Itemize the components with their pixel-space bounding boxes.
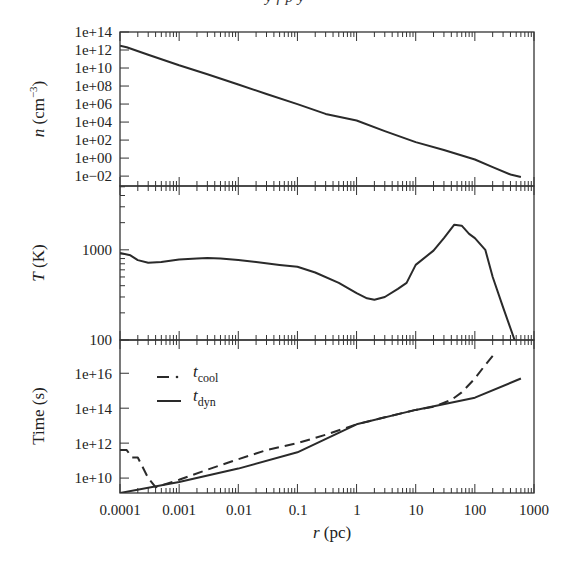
figure: 1e+14 1e+12 1e+10 1e+08 1e+06 1e+04 1e+0…	[0, 0, 570, 573]
ytick-label: 1e+00	[74, 150, 112, 166]
panel-frames	[120, 32, 534, 493]
legend-entry-tdyn: tdyn	[157, 386, 216, 409]
xtick-labels: 0.0001 0.001 0.01 0.1 1 10 100 1000	[99, 502, 549, 518]
time-ytick-labels: 1e+16 1e+14 1e+12 1e+10	[74, 366, 112, 486]
ytick-label: 1e−02	[74, 168, 112, 184]
T-curve	[120, 225, 515, 340]
x-axis-label-unit: (pc)	[320, 523, 352, 542]
time-y-axis-label: Time (s)	[29, 387, 48, 444]
ytick-label: 1e+16	[74, 366, 112, 382]
xtick-label: 1000	[519, 502, 549, 518]
ytick-label: 1e+14	[74, 401, 112, 417]
ytick-label: 1e+08	[74, 78, 112, 94]
xtick-label: 0.01	[226, 502, 252, 518]
legend-label-tcool: tcool	[193, 362, 219, 385]
ytick-label: 1e+10	[74, 470, 112, 486]
xtick-label: 0.0001	[99, 502, 140, 518]
xtick-label: 1	[353, 502, 361, 518]
x-axis-label: r (pc)	[313, 523, 351, 542]
temperature-y-axis-label: T (K)	[29, 244, 48, 281]
legend: tcool tdyn	[157, 362, 219, 409]
ytick-label: 1e+06	[74, 96, 112, 112]
T-panel-frame	[120, 186, 534, 340]
density-y-axis-label: n (cm−3)	[27, 81, 48, 138]
temperature-ytick-labels: 1000 100	[82, 242, 112, 348]
density-label-var: n	[29, 129, 48, 138]
ytick-label: 1e+12	[74, 436, 112, 452]
legend-label-tdyn: tdyn	[193, 386, 216, 409]
n-panel-frame	[120, 32, 534, 186]
ytick-label: 1e+10	[74, 60, 112, 76]
xtick-label: 100	[464, 502, 487, 518]
ytick-label: 1e+14	[74, 24, 112, 40]
ytick-label: 1e+12	[74, 42, 112, 58]
density-label-close: )	[29, 81, 48, 87]
ytick-label: 1e+02	[74, 132, 112, 148]
xtick-label: 0.001	[162, 502, 196, 518]
t-cool-panel-frame	[120, 340, 534, 493]
ytick-label: 1e+04	[74, 114, 112, 130]
density-ytick-labels: 1e+14 1e+12 1e+10 1e+08 1e+06 1e+04 1e+0…	[74, 24, 112, 184]
n-curve	[120, 46, 521, 177]
dash-dot-dot-icon	[176, 376, 179, 379]
xtick-label: 0.1	[289, 502, 308, 518]
temperature-label-unit: (K)	[29, 244, 48, 272]
density-label-unit: (cm	[29, 98, 48, 129]
data-curves	[120, 46, 521, 493]
xtick-label: 10	[409, 502, 424, 518]
ytick-label: 1000	[82, 242, 112, 258]
ytick-label: 100	[90, 332, 113, 348]
t-cool-curve	[120, 356, 493, 487]
legend-entry-tcool: tcool	[157, 362, 219, 385]
axis-ticks	[120, 32, 534, 493]
density-label-exponent: −3	[27, 86, 39, 98]
